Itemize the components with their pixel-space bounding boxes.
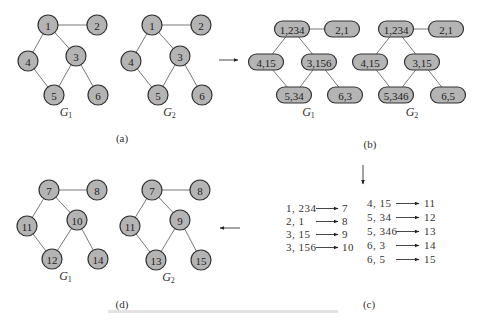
graph-node: 12 <box>42 249 62 269</box>
graph-node: 1,234 <box>275 21 310 37</box>
node-label: 6,5 <box>441 90 455 102</box>
mapping-row: 3, 15610 <box>286 241 354 253</box>
node-label: 10 <box>72 215 84 227</box>
graph-node: 3 <box>66 46 86 66</box>
mapping-source: 2, 1 <box>286 215 305 227</box>
graph-node: 7 <box>142 180 162 200</box>
mapping-source: 5, 346 <box>367 225 398 237</box>
mapping-target: 9 <box>342 228 348 240</box>
node-label: 4,15 <box>256 57 276 69</box>
graph-node: 3,156 <box>302 54 337 70</box>
node-label: 5 <box>51 90 57 102</box>
mapping-row: 3, 159 <box>286 228 348 240</box>
graph-name-label: G2 <box>163 105 176 120</box>
mapping-target: 8 <box>342 215 348 227</box>
mapping-row: 6, 515 <box>367 253 436 265</box>
graph-name-label: G2 <box>162 270 175 285</box>
node-label: 8 <box>197 185 203 197</box>
mapping-target: 12 <box>424 211 436 223</box>
node-label: 4 <box>128 56 134 68</box>
mapping-target: 7 <box>342 202 348 214</box>
mapping-row: 4, 1511 <box>367 197 436 209</box>
graph-node: 5 <box>148 85 168 105</box>
mapping-source: 6, 5 <box>367 253 386 265</box>
node-label: 3,156 <box>307 57 332 69</box>
node-label: 14 <box>93 254 105 266</box>
node-label: 2,1 <box>439 24 453 36</box>
mapping-row: 5, 3412 <box>367 211 436 223</box>
graph-node: 2 <box>87 15 107 35</box>
graph-name-label: G1 <box>60 105 73 120</box>
node-label: 6,3 <box>338 90 352 102</box>
mapping-source: 5, 34 <box>367 211 392 223</box>
node-label: 3 <box>177 51 183 63</box>
graph-labels-layer: G1G2G1G2G1G2 <box>59 105 418 285</box>
graph-node: 6 <box>192 85 212 105</box>
node-label: 4,15 <box>360 57 380 69</box>
caption-d: (d) <box>116 298 129 311</box>
node-label: 5 <box>155 90 161 102</box>
graph-node: 13 <box>146 250 166 270</box>
mapping-source: 3, 156 <box>286 241 317 253</box>
graph-node: 3,15 <box>405 54 440 70</box>
node-label: 1 <box>45 20 51 32</box>
graph-node: 1,234 <box>379 21 414 37</box>
node-label: 4 <box>25 56 31 68</box>
mapping-source: 6, 3 <box>367 239 386 251</box>
node-label: 2,1 <box>335 24 349 36</box>
graph-node: 3 <box>170 46 190 66</box>
mapping-target: 15 <box>424 253 436 265</box>
graph-node: 1 <box>142 15 162 35</box>
graph-node: 6 <box>88 85 108 105</box>
node-label: 2 <box>94 20 100 32</box>
graph-node: 15 <box>191 250 211 270</box>
caption-c: (c) <box>363 298 376 311</box>
node-label: 6 <box>199 90 205 102</box>
graph-node: 4 <box>121 51 141 71</box>
graph-node: 14 <box>88 249 108 269</box>
node-label: 12 <box>47 254 58 266</box>
graph-node: 8 <box>87 180 107 200</box>
caption-a: (a) <box>116 132 129 145</box>
mapping-target: 13 <box>424 225 436 237</box>
graph-node: 4,15 <box>249 54 284 70</box>
node-label: 7 <box>149 185 155 197</box>
graph-node: 4,15 <box>353 54 388 70</box>
graph-node: 10 <box>67 210 87 230</box>
node-label: 1 <box>149 20 155 32</box>
graph-node: 2,1 <box>325 21 360 37</box>
node-label: 6 <box>95 90 101 102</box>
graph-node: 7 <box>39 180 59 200</box>
mapping-source: 4, 15 <box>367 197 392 209</box>
node-label: 8 <box>94 185 100 197</box>
figure-caption-faint <box>108 310 338 313</box>
caption-b: (b) <box>364 138 377 151</box>
graph-node: 11 <box>120 216 140 236</box>
node-label: 3,15 <box>412 57 432 69</box>
node-label: 5,346 <box>384 90 409 102</box>
node-label: 11 <box>22 221 33 233</box>
graph-node: 5,346 <box>379 87 414 103</box>
graph-node: 11 <box>17 216 37 236</box>
node-label: 15 <box>196 255 208 267</box>
mapping-row: 5, 34613 <box>367 225 436 237</box>
mapping-row: 2, 18 <box>286 215 348 227</box>
graph-name-label: G2 <box>406 105 419 120</box>
node-label: 3 <box>73 51 79 63</box>
node-label: 1,234 <box>384 24 409 36</box>
figure-canvas: 1234561234561,2342,14,153,1565,346,31,23… <box>0 0 478 322</box>
node-label: 5,34 <box>284 90 304 102</box>
mapping-target: 11 <box>424 197 436 209</box>
mapping-table: 1, 23472, 183, 1593, 156104, 15115, 3412… <box>286 197 436 265</box>
mapping-source: 3, 15 <box>286 228 311 240</box>
node-label: 2 <box>198 20 204 32</box>
node-label: 7 <box>46 185 52 197</box>
mapping-row: 1, 2347 <box>286 202 348 214</box>
node-label: 11 <box>125 221 136 233</box>
graph-node: 1 <box>38 15 58 35</box>
graph-node: 5 <box>44 85 64 105</box>
graph-node: 6,3 <box>328 87 363 103</box>
graph-node: 6,5 <box>431 87 466 103</box>
graph-node: 8 <box>190 180 210 200</box>
graph-node: 4 <box>18 51 38 71</box>
